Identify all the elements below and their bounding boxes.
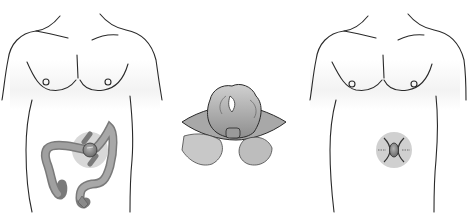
left-torso-panel bbox=[2, 14, 162, 212]
stoma-with-sutures bbox=[376, 132, 412, 168]
middle-panel-incision bbox=[182, 84, 286, 165]
medical-illustration: Three-panel medical illustration of a co… bbox=[0, 0, 467, 216]
colon bbox=[45, 128, 113, 208]
stoma bbox=[83, 143, 97, 157]
right-torso-panel bbox=[310, 14, 466, 212]
support-rod bbox=[226, 128, 240, 138]
illustration-svg bbox=[0, 0, 467, 216]
